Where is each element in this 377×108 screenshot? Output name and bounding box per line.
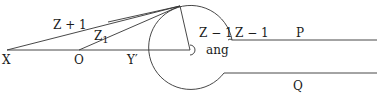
radius-line xyxy=(180,6,190,50)
label-p: P xyxy=(296,26,304,40)
line-extra xyxy=(108,6,180,22)
label-y-prime: Y′ xyxy=(126,53,138,67)
label-z1: Z1 xyxy=(94,29,109,45)
label-x: X xyxy=(2,53,11,67)
geometry-diagram: X O Y′ Z + 1 Z1 Z − 1 Z − 1 ang P Q xyxy=(0,0,377,108)
label-z-plus-1: Z + 1 xyxy=(53,18,87,32)
angle-arc-icon xyxy=(190,45,195,55)
label-q: Q xyxy=(293,79,303,93)
label-z-minus-1-left: Z − 1 xyxy=(199,26,233,40)
label-z-minus-1-right: Z − 1 xyxy=(235,26,269,40)
label-ang: ang xyxy=(206,43,229,57)
label-o: O xyxy=(74,53,84,67)
diagram-canvas: X O Y′ Z + 1 Z1 Z − 1 Z − 1 ang P Q xyxy=(0,0,377,108)
